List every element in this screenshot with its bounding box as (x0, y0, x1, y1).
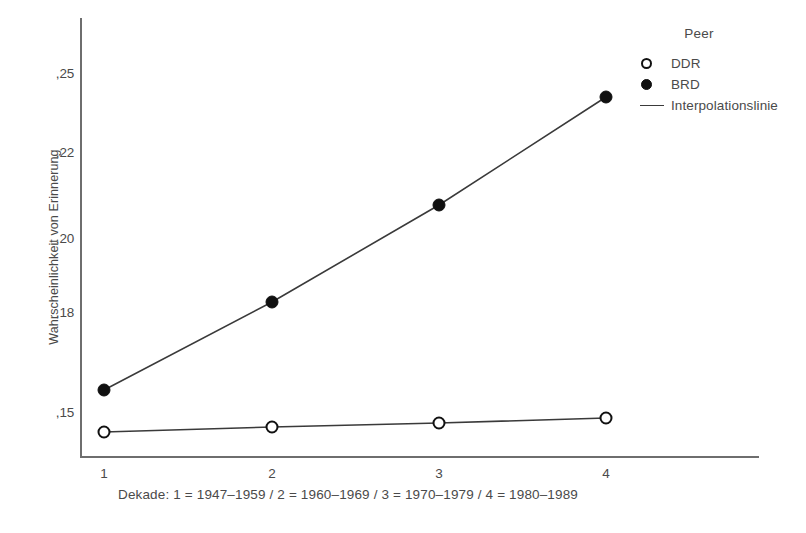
data-point-ddr-3 (433, 417, 446, 430)
legend-item-brd: BRD (638, 74, 806, 95)
filled-circle-icon (641, 79, 652, 90)
data-point-brd-2 (266, 296, 279, 309)
legend-marker-line (638, 105, 664, 107)
legend-label: Interpolationslinie (664, 98, 778, 113)
legend-marker-ddr (638, 58, 664, 69)
legend-marker-brd (638, 79, 664, 90)
legend: Peer DDRBRDInterpolationslinie (638, 26, 806, 116)
data-point-ddr-1 (98, 426, 111, 439)
legend-entries: DDRBRDInterpolationslinie (638, 53, 806, 116)
data-point-ddr-2 (266, 421, 279, 434)
legend-label: DDR (664, 56, 701, 71)
data-point-ddr-4 (600, 412, 613, 425)
line-swatch-icon (640, 105, 664, 107)
chart-page: ,25,22,20,18,15 1234 Wahrscheinlichkeit … (0, 0, 806, 533)
data-point-brd-4 (600, 91, 613, 104)
open-circle-icon (641, 58, 652, 69)
legend-item-interpolationslinie: Interpolationslinie (638, 95, 806, 116)
data-point-brd-1 (98, 384, 111, 397)
legend-label: BRD (664, 77, 700, 92)
data-point-brd-3 (433, 199, 446, 212)
legend-item-ddr: DDR (638, 53, 806, 74)
legend-title: Peer (640, 26, 758, 41)
